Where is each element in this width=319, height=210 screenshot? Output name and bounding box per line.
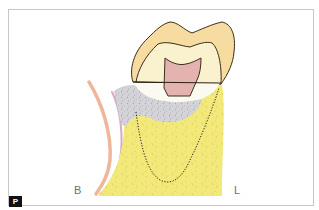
panel-badge: P	[9, 196, 22, 207]
tooth-bone-diagram	[0, 0, 319, 210]
lingual-label: L	[234, 184, 240, 196]
gingiva-outer	[89, 82, 110, 194]
buccal-label: B	[74, 184, 81, 196]
